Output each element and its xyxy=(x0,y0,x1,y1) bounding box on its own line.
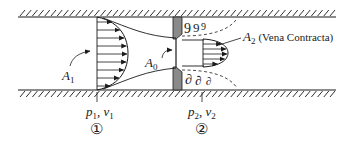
svg-text:p2, v2: p2, v2 xyxy=(187,104,216,121)
svg-text:p1, v1: p1, v1 xyxy=(85,104,114,121)
station-2-marker: ② xyxy=(195,121,208,137)
eddies-bottom: ∂ ∂ ∂ xyxy=(185,72,211,88)
velocity-profile-station-1 xyxy=(97,17,128,90)
station-2-label: p2, v2 ② xyxy=(187,92,216,137)
svg-text:9: 9 xyxy=(201,21,206,32)
svg-text:∂: ∂ xyxy=(195,73,201,88)
svg-text:9: 9 xyxy=(193,20,200,35)
eddies-top: 9 9 9 xyxy=(184,20,206,36)
orifice-flow-diagram: 9 9 9 ∂ ∂ ∂ A1 A0 A2(Vena Contracta) p1,… xyxy=(0,0,351,147)
station-1-label: p1, v1 ① xyxy=(85,92,114,137)
top-pipe-wall xyxy=(18,10,336,17)
svg-text:∂: ∂ xyxy=(206,75,211,87)
svg-text:A0: A0 xyxy=(144,55,158,72)
orifice-plate xyxy=(173,17,182,90)
svg-text:A1: A1 xyxy=(61,68,74,85)
svg-text:∂: ∂ xyxy=(185,72,192,87)
bottom-pipe-wall xyxy=(18,90,336,97)
station-1-marker: ① xyxy=(90,121,103,137)
label-a1: A1 xyxy=(61,51,90,85)
svg-text:9: 9 xyxy=(184,21,191,36)
label-a2-vena-contracta: A2(Vena Contracta) xyxy=(219,29,334,46)
svg-text:A2(Vena Contracta): A2(Vena Contracta) xyxy=(242,29,334,46)
